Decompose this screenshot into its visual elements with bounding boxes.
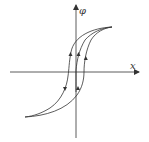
hysteresis-diagram: x φ: [0, 0, 149, 142]
arrow-left-branch-down-icon: [63, 87, 67, 91]
arrow-right-branch-lower-up-icon: [76, 86, 80, 90]
inner-branch: [76, 27, 112, 92]
arrow-right-branch-up-icon: [84, 56, 88, 60]
arrow-inner-branch-up-icon: [77, 52, 81, 56]
y-axis-label: φ: [79, 5, 86, 16]
x-axis-label: x: [130, 60, 136, 71]
arrow-left-branch-up-icon: [69, 52, 73, 56]
